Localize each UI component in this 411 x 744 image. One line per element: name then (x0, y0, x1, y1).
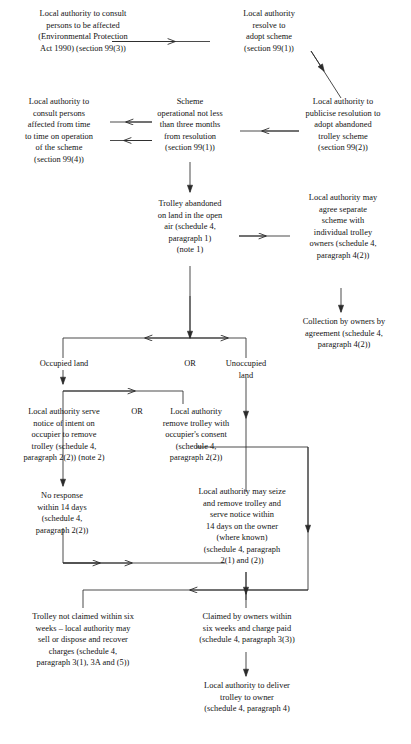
node-claimed-by-owners: Claimed by owners within six weeks and c… (175, 611, 319, 646)
flowchart-canvas: Local authority to consult persons to be… (0, 0, 411, 744)
node-consult-affected: Local authority to consult persons to be… (8, 8, 158, 54)
node-no-response-14-days: No response within 14 days (schedule 4, … (12, 490, 112, 536)
node-scheme-operational: Scheme operational not less than three m… (136, 96, 244, 154)
node-not-claimed-six-weeks: Trolley not claimed within six weeks – l… (8, 611, 158, 669)
node-resolve-adopt: Local authority resolve to adopt scheme … (214, 8, 324, 54)
node-seize-and-remove: Local authority may seize and remove tro… (180, 486, 304, 567)
node-consult-time-to-time: Local authority to consult persons affec… (6, 96, 112, 165)
label-occupied-land: Occupied land (18, 358, 110, 370)
node-agree-separate-scheme: Local authority may agree separate schem… (285, 192, 401, 261)
node-trolley-abandoned: Trolley abandoned on land in the open ai… (136, 198, 244, 256)
node-remove-with-consent: Local authority remove trolley with occu… (143, 406, 249, 464)
node-serve-notice-occupier: Local authority serve notice of intent o… (0, 406, 128, 464)
node-publicise-resolution: Local authority to publicise resolution … (280, 96, 406, 154)
label-unoccupied-land: Unoccupied land (210, 358, 282, 381)
node-collection-by-owners: Collection by owners by agreement (sched… (281, 316, 407, 351)
node-deliver-trolley: Local authority to deliver trolley to ow… (175, 680, 319, 715)
